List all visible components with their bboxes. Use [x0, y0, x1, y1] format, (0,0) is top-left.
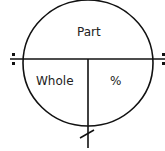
whole-label: Whole	[36, 74, 74, 88]
percent-label: %	[110, 74, 121, 88]
percent-circle-diagram	[0, 0, 165, 151]
multiply-slash-icon	[80, 130, 94, 138]
part-label: Part	[77, 25, 101, 39]
